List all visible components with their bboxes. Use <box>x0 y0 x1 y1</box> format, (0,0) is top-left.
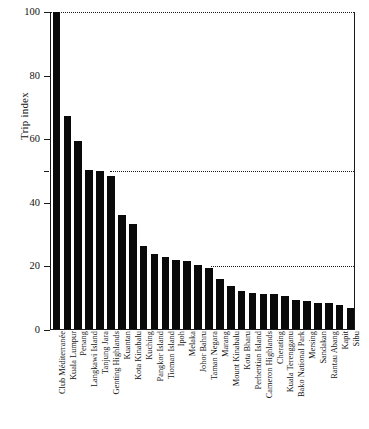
x-tick-label: Kuantan <box>124 331 132 359</box>
bar <box>216 279 224 329</box>
x-tick-label: Johor Bahru <box>200 331 208 372</box>
x-tick-label: Tanjung Jara <box>102 331 110 374</box>
x-tick-label: Kuala Terengganu <box>287 331 295 392</box>
y-tick-label: 60 <box>0 133 40 144</box>
bar <box>270 294 278 329</box>
x-tick-label: Cherating <box>277 331 285 364</box>
x-tick-label: Tioman Island <box>168 331 176 379</box>
bar <box>96 171 104 329</box>
trip-index-bar-chart: Trip index 020406080100 Club Méditerrané… <box>0 0 369 429</box>
bar <box>227 286 235 329</box>
bar <box>281 296 289 329</box>
bar <box>140 246 148 329</box>
y-tick-label: 20 <box>0 260 40 271</box>
y-tick-label: 100 <box>0 6 40 17</box>
bar <box>303 301 311 329</box>
x-tick-label: Club Méditerranée <box>59 331 67 394</box>
x-tick-label: Kota Bharu <box>244 331 252 370</box>
x-tick-label: Mersing <box>309 331 317 359</box>
x-tick-label: Mount Kinabalu <box>233 331 241 386</box>
x-tick-label: Kota Kinabalu <box>135 331 143 380</box>
bar <box>205 268 213 329</box>
x-tick-label: Marang <box>222 331 230 357</box>
x-tick-label: Langkawi Island <box>91 331 99 387</box>
bar <box>53 12 61 329</box>
bar <box>336 305 344 329</box>
x-tick-label: Rantau Abang <box>331 331 339 379</box>
x-tick-label: Sibu <box>353 331 361 346</box>
bar <box>194 265 202 329</box>
x-tick-label: Melaka <box>189 331 197 356</box>
bar <box>107 176 115 329</box>
bar <box>260 294 268 329</box>
bar <box>325 303 333 329</box>
y-tick-label: 40 <box>0 197 40 208</box>
x-tick-label: Taman Negara <box>211 331 219 380</box>
bar <box>292 300 300 329</box>
bar <box>74 141 82 329</box>
bar <box>249 293 257 329</box>
bar <box>314 303 322 329</box>
bar <box>162 257 170 329</box>
bar <box>238 291 246 329</box>
y-tick-label: 0 <box>0 324 40 335</box>
bar <box>64 116 72 329</box>
x-tick-label: Kuching <box>146 331 154 360</box>
plot-area <box>50 12 355 330</box>
bar <box>129 224 137 329</box>
x-tick-label: Ipoh <box>178 331 186 346</box>
x-tick-label: Pangkor Island <box>157 331 165 381</box>
x-tick-label: Sandakan <box>320 331 328 364</box>
x-tick-label: Cameron Highlands <box>266 331 274 398</box>
bar <box>183 261 191 329</box>
bar <box>151 254 159 329</box>
y-minor-tick-mark <box>44 171 49 172</box>
bar <box>172 260 180 329</box>
x-axis-category-labels: Club MéditerranéeKuala LumpurPenangLangk… <box>50 331 355 429</box>
bar <box>118 215 126 329</box>
bar-series <box>51 12 354 329</box>
x-tick-label: Perhentian Island <box>255 331 263 389</box>
x-tick-label: Kuala Lumpur <box>70 331 78 380</box>
bar <box>85 170 93 329</box>
x-tick-label: Penang <box>80 331 88 356</box>
y-tick-label: 80 <box>0 70 40 81</box>
x-tick-label: Bako National Park <box>298 331 306 397</box>
bar <box>347 308 355 329</box>
x-tick-label: Genting Highlands <box>113 331 121 395</box>
x-tick-label: Kapit <box>342 331 350 350</box>
